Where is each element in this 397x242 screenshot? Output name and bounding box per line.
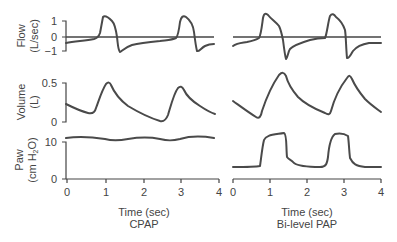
svg-text:1: 1 — [103, 186, 109, 198]
flow-y-axis: 1 0 −1 — [44, 15, 66, 57]
svg-text:3: 3 — [178, 186, 184, 198]
svg-text:0: 0 — [51, 173, 57, 185]
cpap-caption: CPAP — [129, 218, 158, 230]
bilevel-caption: Bi-level PAP — [277, 218, 337, 230]
ventilation-waveform-chart: Flow (L/sec) Volume (L) Paw (cm H2O) 1 0… — [0, 0, 397, 242]
svg-text:1: 1 — [267, 186, 273, 198]
svg-text:4: 4 — [378, 186, 384, 198]
svg-text:1: 1 — [51, 15, 57, 27]
svg-text:0: 0 — [64, 186, 70, 198]
svg-text:Flow: Flow — [15, 24, 27, 47]
cpap-paw-trace — [66, 137, 214, 141]
svg-text:0: 0 — [51, 116, 57, 128]
cpap-x-axis: 0 1 2 3 4 — [64, 179, 222, 198]
cpap-flow-trace — [66, 16, 214, 52]
svg-text:(cm H2O): (cm H2O) — [26, 137, 39, 182]
cpap-volume-trace — [66, 83, 215, 122]
bilevel-volume-trace — [233, 73, 381, 118]
svg-text:Volume: Volume — [15, 84, 27, 121]
cpap-xlabel: Time (sec) — [118, 206, 170, 218]
svg-text:Paw: Paw — [13, 149, 25, 170]
flow-y-label: Flow (L/sec) — [15, 19, 40, 53]
volume-y-label: Volume (L) — [15, 84, 40, 121]
volume-y-axis: 0.5 0 — [42, 77, 66, 128]
svg-text:2: 2 — [141, 186, 147, 198]
svg-text:2: 2 — [304, 186, 310, 198]
svg-text:(L/sec): (L/sec) — [28, 19, 40, 53]
bilevel-xlabel: Time (sec) — [281, 206, 333, 218]
paw-y-label: Paw (cm H2O) — [13, 137, 39, 182]
svg-text:(L): (L) — [28, 95, 40, 108]
svg-text:0: 0 — [230, 186, 236, 198]
svg-text:−1: −1 — [44, 45, 57, 57]
bilevel-x-axis: 0 1 2 3 4 — [230, 179, 384, 198]
svg-text:0.5: 0.5 — [42, 77, 57, 89]
svg-text:4: 4 — [216, 186, 222, 198]
svg-text:0: 0 — [51, 31, 57, 43]
svg-text:10: 10 — [45, 136, 57, 148]
bilevel-paw-trace — [233, 133, 381, 167]
svg-text:3: 3 — [341, 186, 347, 198]
paw-y-axis: 10 0 — [45, 136, 66, 185]
